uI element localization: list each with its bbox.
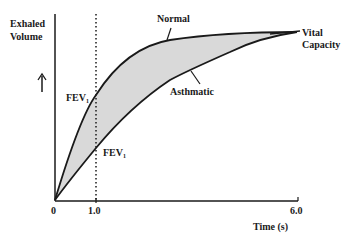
vital-capacity-label-line2: Capacity <box>302 39 340 50</box>
fev1-asthmatic-label: FEV1 <box>103 147 126 159</box>
fev1-asthmatic-subscript: 1 <box>123 153 126 159</box>
asthmatic-leader <box>191 71 200 84</box>
fev1-normal-text: FEV <box>66 92 87 103</box>
fev1-asthmatic-text: FEV <box>103 147 124 158</box>
shaded-difference-region <box>55 32 297 200</box>
y-axis-label-line2: Volume <box>10 31 43 42</box>
x-axis-label: Time (s) <box>253 221 288 233</box>
normal-label: Normal <box>157 13 190 24</box>
spirometry-chart: Exhaled Volume Normal Asthmatic FEV1 FEV… <box>0 0 353 238</box>
vital-capacity-label-line1: Vital <box>302 27 323 38</box>
normal-leader <box>167 28 171 40</box>
asthmatic-label: Asthmatic <box>170 86 214 97</box>
x-tick-label-1: 1.0 <box>88 205 101 216</box>
y-axis-label-line1: Exhaled <box>10 18 45 29</box>
x-tick-label-6: 6.0 <box>290 205 303 216</box>
fev1-normal-subscript: 1 <box>86 98 89 104</box>
fev1-normal-label: FEV1 <box>66 92 89 104</box>
x-tick-label-0: 0 <box>51 205 56 216</box>
